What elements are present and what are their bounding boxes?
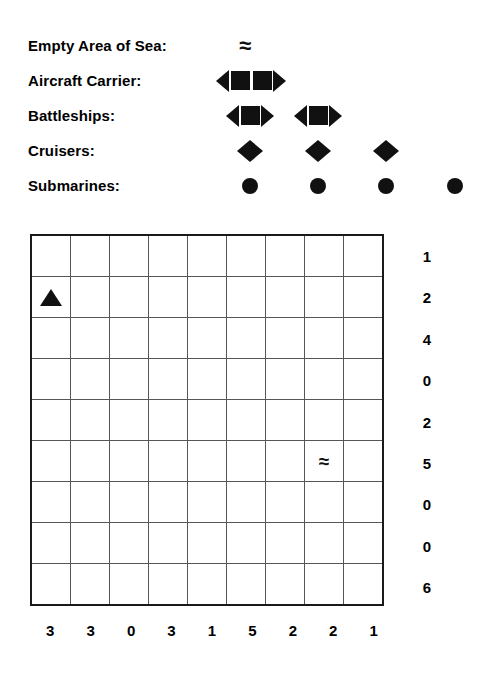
empty-cell [32,359,70,399]
grid-cell[interactable] [305,564,344,606]
grid-cell[interactable] [31,235,71,277]
grid-cell[interactable] [227,277,266,318]
grid-cell[interactable] [188,277,227,318]
grid-cell[interactable] [110,318,149,359]
grid-row [31,235,383,277]
grid-cell[interactable] [344,482,384,523]
grid-cell[interactable] [305,318,344,359]
grid-cell[interactable] [305,482,344,523]
empty-cell [32,318,70,358]
grid-cell[interactable] [305,400,344,441]
grid-cell[interactable] [305,523,344,564]
grid-cell[interactable] [188,482,227,523]
grid-cell[interactable] [266,400,305,441]
column-clue: 5 [232,616,272,646]
grid-cell[interactable] [31,400,71,441]
empty-cell [188,441,226,481]
grid-cell[interactable] [227,564,266,606]
grid-cell[interactable] [110,400,149,441]
grid-cell[interactable]: ≈ [305,441,344,482]
grid-cell[interactable] [149,482,188,523]
grid-cell[interactable] [149,441,188,482]
grid-cell[interactable] [31,482,71,523]
grid-cell[interactable] [71,235,110,277]
grid-cell[interactable] [71,564,110,606]
puzzle-grid[interactable]: ≈ [30,234,384,606]
grid-cell[interactable] [227,441,266,482]
triangle-shape [40,289,62,306]
legend-symbol-group: ≈ [0,28,486,63]
grid-cell[interactable] [110,277,149,318]
grid-cell[interactable] [188,564,227,606]
empty-cell [227,523,265,563]
empty-cell [227,564,265,604]
grid-cell[interactable] [266,482,305,523]
grid-cell[interactable] [188,359,227,400]
grid-cell[interactable] [266,359,305,400]
grid-cell[interactable] [227,482,266,523]
grid-cell[interactable] [31,318,71,359]
grid-cell[interactable] [71,482,110,523]
grid-cell[interactable] [71,277,110,318]
column-clue: 0 [111,616,151,646]
grid-cell[interactable] [188,318,227,359]
grid-cell[interactable] [71,359,110,400]
grid-cell[interactable] [110,523,149,564]
empty-cell [110,277,148,317]
grid-cell[interactable] [227,359,266,400]
grid-cell[interactable] [31,277,71,318]
legend-row: Submarines: [0,168,486,203]
grid-cell[interactable] [344,235,384,277]
grid-cell[interactable] [149,564,188,606]
grid-cell[interactable] [227,523,266,564]
grid-cell[interactable] [31,523,71,564]
grid-cell[interactable] [149,359,188,400]
grid-cell[interactable] [266,441,305,482]
grid-cell[interactable] [149,400,188,441]
grid-cell[interactable] [110,564,149,606]
grid-cell[interactable] [110,482,149,523]
grid-cell[interactable] [71,400,110,441]
grid-cell[interactable] [227,235,266,277]
empty-cell [32,523,70,563]
grid-cell[interactable] [71,318,110,359]
grid-cell[interactable] [344,318,384,359]
ship-shape [294,105,342,127]
grid-cell[interactable] [305,277,344,318]
ship-bow-right-icon [261,105,274,127]
grid-cell[interactable] [149,318,188,359]
grid-cell[interactable] [188,400,227,441]
grid-cell[interactable] [149,235,188,277]
grid-cell[interactable] [266,564,305,606]
grid-cell[interactable] [344,359,384,400]
grid-cell[interactable] [31,564,71,606]
grid-cell[interactable] [227,318,266,359]
grid-cell[interactable] [344,441,384,482]
grid-cell[interactable] [266,235,305,277]
empty-cell [149,564,187,604]
grid-cell[interactable] [71,441,110,482]
grid-cell[interactable] [110,441,149,482]
grid-cell[interactable] [31,441,71,482]
grid-cell[interactable] [266,523,305,564]
submarine-dot-icon [378,168,394,203]
grid-cell[interactable] [188,235,227,277]
grid-cell[interactable] [188,523,227,564]
grid-cell[interactable] [110,235,149,277]
grid-cell[interactable] [305,359,344,400]
grid-cell[interactable] [344,564,384,606]
grid-cell[interactable] [227,400,266,441]
empty-cell [32,441,70,481]
grid-cell[interactable] [71,523,110,564]
grid-cell[interactable] [266,318,305,359]
grid-cell[interactable] [31,359,71,400]
grid-cell[interactable] [344,400,384,441]
grid-cell[interactable] [305,235,344,277]
grid-cell[interactable] [149,523,188,564]
grid-cell[interactable] [110,359,149,400]
grid-cell[interactable] [149,277,188,318]
grid-cell[interactable] [266,277,305,318]
grid-cell[interactable] [188,441,227,482]
grid-cell[interactable] [344,523,384,564]
grid-cell[interactable] [344,277,384,318]
